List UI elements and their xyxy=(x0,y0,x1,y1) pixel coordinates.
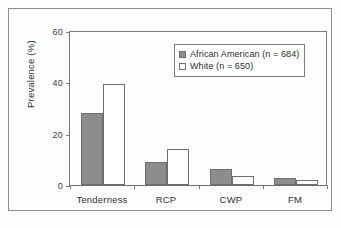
x-tick-1 xyxy=(134,185,135,189)
legend-label-african-american: African American (n = 684) xyxy=(190,49,299,59)
bar-fm-white xyxy=(296,180,318,185)
legend-item-african-american: African American (n = 684) xyxy=(179,48,299,60)
y-tick-40: 40 xyxy=(66,83,70,84)
x-tick-label-rcp: RCP xyxy=(156,194,177,205)
x-tick-label-fm: FM xyxy=(288,194,302,205)
y-tick-20: 20 xyxy=(66,135,70,136)
bar-fm-african-american xyxy=(274,178,296,185)
x-tick-0 xyxy=(70,185,71,189)
bar-rcp-white xyxy=(167,149,189,185)
y-tick-label-0: 0 xyxy=(58,181,63,191)
legend-swatch-open-square-icon xyxy=(179,63,186,70)
bar-tenderness-african-american xyxy=(81,113,103,185)
y-tick-label-60: 60 xyxy=(53,27,63,37)
legend-swatch-filled-square-icon xyxy=(179,51,186,58)
y-tick-60: 60 xyxy=(66,32,70,33)
figure-border: Prevalence (%) 60 40 20 0 Tenderness xyxy=(8,8,332,211)
chart-legend: African American (n = 684) White (n = 65… xyxy=(174,44,305,77)
y-tick-label-40: 40 xyxy=(53,78,63,88)
x-tick-2 xyxy=(199,185,200,189)
x-tick-4 xyxy=(327,185,328,189)
x-tick-3 xyxy=(263,185,264,189)
bar-cwp-african-american xyxy=(210,169,232,185)
bar-chart-figure: Prevalence (%) 60 40 20 0 Tenderness xyxy=(0,0,341,228)
bar-cwp-white xyxy=(232,176,254,185)
x-tick-label-tenderness: Tenderness xyxy=(76,194,127,205)
legend-item-white: White (n = 650) xyxy=(179,60,299,72)
y-tick-label-20: 20 xyxy=(53,130,63,140)
plot-area: 60 40 20 0 Tenderness RCP CWP FM xyxy=(69,31,327,186)
bar-rcp-african-american xyxy=(145,162,167,185)
x-tick-label-cwp: CWP xyxy=(220,194,243,205)
legend-label-white: White (n = 650) xyxy=(190,61,253,71)
y-axis-title: Prevalence (%) xyxy=(25,40,36,108)
bar-tenderness-white xyxy=(103,84,125,185)
